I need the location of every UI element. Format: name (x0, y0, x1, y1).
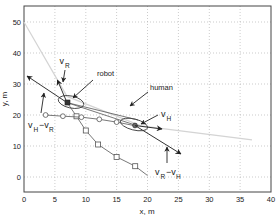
svg-text:10: 10 (13, 142, 21, 151)
vH-label: v H (161, 109, 172, 122)
y-axis-label: y, m (0, 91, 9, 106)
vR-minus-vH-label: v R −v H (155, 167, 181, 180)
svg-text:R: R (161, 173, 166, 180)
svg-text:30: 30 (13, 80, 21, 89)
x-tick-labels: 0 5 10 15 20 25 30 35 40 (22, 195, 275, 204)
vR-label: v R (60, 56, 71, 69)
svg-text:40: 40 (267, 195, 275, 204)
robot-label: robot (97, 69, 115, 78)
svg-text:H: H (167, 115, 172, 122)
svg-text:−v: −v (39, 120, 49, 130)
vH-minus-vR-label: v H −v R (28, 120, 54, 133)
svg-text:v: v (155, 167, 160, 177)
svg-text:10: 10 (82, 195, 90, 204)
human-label: human (150, 83, 173, 92)
svg-text:20: 20 (13, 111, 21, 120)
svg-text:H: H (176, 173, 181, 180)
svg-text:0: 0 (22, 195, 26, 204)
svg-text:H: H (34, 126, 39, 133)
y-tick-labels: 0 10 20 30 40 50 (13, 18, 21, 182)
svg-text:35: 35 (236, 195, 244, 204)
svg-text:v: v (60, 56, 65, 66)
svg-text:R: R (49, 126, 54, 133)
svg-text:5: 5 (53, 195, 57, 204)
svg-text:R: R (65, 62, 70, 69)
svg-text:0: 0 (17, 173, 21, 182)
x-axis-label: x, m (139, 207, 154, 216)
svg-text:−v: −v (166, 167, 176, 177)
svg-text:20: 20 (143, 195, 151, 204)
svg-text:30: 30 (205, 195, 213, 204)
svg-text:v: v (28, 120, 33, 130)
chart: robot human v R v H v H −v R v R −v H 0 … (0, 0, 278, 219)
svg-text:40: 40 (13, 49, 21, 58)
svg-text:25: 25 (174, 195, 182, 204)
svg-text:v: v (161, 109, 166, 119)
svg-text:15: 15 (112, 195, 120, 204)
robot-markers (74, 114, 138, 169)
svg-text:50: 50 (13, 18, 21, 27)
